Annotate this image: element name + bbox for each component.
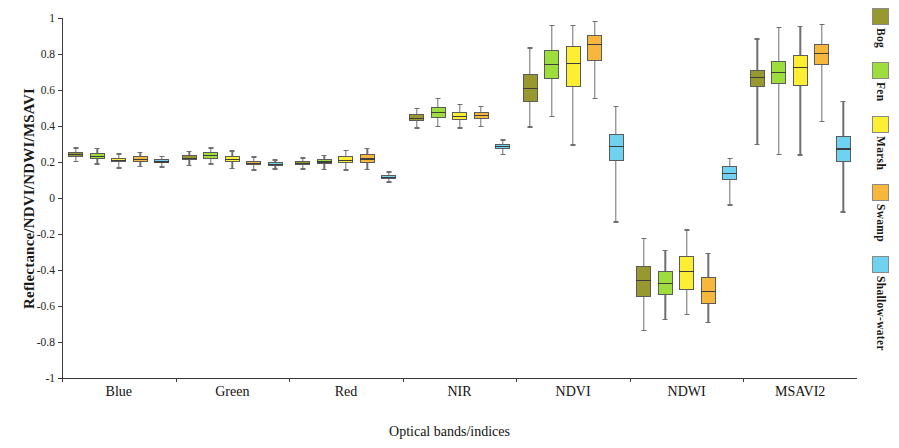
whisker-cap-lower <box>138 166 143 167</box>
whisker-cap-upper <box>457 104 462 105</box>
whisker-cap-lower <box>571 144 576 145</box>
whisker-lower <box>459 120 460 127</box>
whisker-upper <box>843 101 844 136</box>
legend-item-shallow-water[interactable]: Shallow-water <box>862 256 899 351</box>
y-tick-label: -0.6 <box>37 300 55 312</box>
x-tick-label: NDVI <box>556 384 591 400</box>
median-line <box>544 64 559 65</box>
whisker-lower <box>729 180 730 204</box>
x-tick-mark <box>289 378 290 382</box>
x-tick-mark <box>630 378 631 382</box>
legend-swatch-icon <box>872 8 889 25</box>
whisker-cap-lower <box>798 154 803 155</box>
whisker-cap-lower <box>528 126 533 127</box>
box-plot-swamp-blue <box>133 18 148 378</box>
whisker-cap-upper <box>343 150 348 151</box>
whisker-lower <box>757 87 758 143</box>
whisker-lower <box>800 86 801 155</box>
legend-swatch-icon <box>872 184 889 201</box>
box-plot-shallow-water-ndwi <box>722 18 737 378</box>
median-line <box>814 53 829 54</box>
whisker-cap-lower <box>414 127 419 128</box>
whisker-lower <box>821 65 822 121</box>
median-line <box>722 173 737 174</box>
whisker-upper <box>529 47 530 74</box>
median-line <box>295 163 310 164</box>
box-plot-fen-msavi2 <box>771 18 786 378</box>
median-line <box>474 115 489 116</box>
median-line <box>111 160 126 161</box>
whisker-lower <box>686 290 687 314</box>
legend-item-marsh[interactable]: Marsh <box>862 116 899 170</box>
legend-item-swamp[interactable]: Swamp <box>862 184 899 242</box>
box-iqr <box>636 266 651 297</box>
whisker-upper <box>643 238 644 266</box>
box-iqr <box>679 256 694 291</box>
box-plot-swamp-green <box>246 18 261 378</box>
whisker-upper <box>707 253 708 277</box>
box-iqr <box>750 70 765 87</box>
y-tick-mark <box>58 198 62 199</box>
box-plot-bog-nir <box>409 18 424 378</box>
whisker-cap-lower <box>592 98 597 99</box>
whisker-cap-lower <box>251 169 256 170</box>
median-line <box>154 161 169 162</box>
box-plot-swamp-ndvi <box>587 18 602 378</box>
whisker-cap-upper <box>528 47 533 48</box>
whisker-upper <box>757 38 758 70</box>
x-tick-label: Green <box>215 384 249 400</box>
box-plot-bog-blue <box>68 18 83 378</box>
whisker-upper <box>664 250 665 271</box>
whisker-cap-lower <box>273 168 278 169</box>
median-line <box>452 116 467 117</box>
box-plot-shallow-water-red <box>381 18 396 378</box>
y-tick-mark <box>58 270 62 271</box>
y-tick-mark <box>58 342 62 343</box>
box-plot-marsh-blue <box>111 18 126 378</box>
x-tick-label: NIR <box>447 384 471 400</box>
x-tick-label: MSAVI2 <box>775 384 825 400</box>
legend-item-fen[interactable]: Fen <box>862 62 899 101</box>
whisker-cap-upper <box>684 229 689 230</box>
x-tick-mark <box>62 378 63 382</box>
box-plot-shallow-water-nir <box>495 18 510 378</box>
whisker-cap-lower <box>365 169 370 170</box>
whisker-lower <box>480 119 481 126</box>
whisker-cap-upper <box>571 25 576 26</box>
box-plot-marsh-nir <box>452 18 467 378</box>
box-plot-marsh-msavi2 <box>793 18 808 378</box>
legend-item-bog[interactable]: Bog <box>862 8 899 48</box>
whisker-cap-lower <box>706 322 711 323</box>
whisker-upper <box>572 25 573 46</box>
box-plot-bog-ndwi <box>636 18 651 378</box>
median-line <box>771 72 786 73</box>
median-line <box>523 88 538 89</box>
legend-swatch-icon <box>872 62 889 79</box>
whisker-cap-lower <box>641 330 646 331</box>
whisker-cap-lower <box>159 166 164 167</box>
whisker-lower <box>416 121 417 127</box>
median-line <box>381 177 396 178</box>
legend-swatch-icon <box>872 116 889 133</box>
x-tick-mark <box>176 378 177 382</box>
y-tick-mark <box>58 306 62 307</box>
whisker-cap-upper <box>841 101 846 102</box>
whisker-cap-lower <box>300 168 305 169</box>
whisker-cap-lower <box>386 181 391 182</box>
median-line <box>701 291 716 292</box>
box-plot-fen-ndwi <box>658 18 673 378</box>
boxplot-chart: Reflectance/NDVI/NDWI/MSAVI 10.80.60.40.… <box>0 0 899 448</box>
whisker-cap-lower <box>322 169 327 170</box>
whisker-cap-lower <box>500 154 505 155</box>
whisker-cap-lower <box>755 144 760 145</box>
median-line <box>203 155 218 156</box>
whisker-lower <box>615 161 616 221</box>
whisker-cap-upper <box>273 159 278 160</box>
x-axis-title: Optical bands/indices <box>0 424 899 440</box>
median-line <box>246 163 261 164</box>
whisker-cap-upper <box>208 147 213 148</box>
box-iqr <box>814 44 829 65</box>
y-tick-mark <box>58 54 62 55</box>
whisker-upper <box>686 229 687 255</box>
whisker-cap-upper <box>755 38 760 39</box>
